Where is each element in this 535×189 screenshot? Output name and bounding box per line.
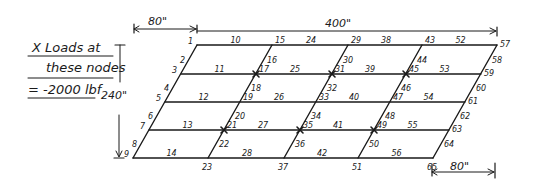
bottom-dimension: 80" bbox=[432, 160, 495, 178]
node-label: 7 bbox=[140, 122, 146, 131]
member-label: 30 bbox=[343, 56, 353, 65]
node-label: 51 bbox=[352, 163, 362, 172]
top-width-label: 400" bbox=[325, 17, 351, 30]
node-label: 17 bbox=[259, 65, 270, 74]
member-label: 18 bbox=[251, 84, 261, 93]
member-label: 44 bbox=[417, 56, 427, 65]
node-label: 1 bbox=[188, 37, 193, 46]
node-label: 23 bbox=[202, 163, 212, 172]
member-label: 12 bbox=[199, 93, 209, 102]
member-label: 48 bbox=[385, 112, 395, 121]
member-label: 28 bbox=[242, 149, 252, 158]
member-label: 55 bbox=[408, 121, 418, 130]
node-label: 57 bbox=[500, 40, 511, 49]
member-label: 10 bbox=[231, 36, 241, 45]
mesh-grid bbox=[133, 45, 497, 158]
member-label: 22 bbox=[219, 140, 229, 149]
node-label: 43 bbox=[425, 36, 435, 45]
node-label: 19 bbox=[243, 93, 253, 102]
member-label: 16 bbox=[267, 56, 277, 65]
node-label: 35 bbox=[303, 121, 313, 130]
node-label: 15 bbox=[275, 36, 285, 45]
node-label: 65 bbox=[427, 163, 437, 172]
member-label: 8 bbox=[132, 140, 137, 149]
member-label: 11 bbox=[215, 65, 225, 74]
legend-line-1: X Loads at bbox=[31, 40, 101, 55]
member-label: 56 bbox=[392, 149, 402, 158]
member-label: 27 bbox=[258, 121, 269, 130]
member-label: 36 bbox=[295, 140, 305, 149]
member-label: 46 bbox=[401, 84, 411, 93]
member-label: 62 bbox=[460, 112, 470, 121]
node-label: 31 bbox=[335, 65, 345, 74]
node-label: 29 bbox=[351, 36, 361, 45]
member-label: 25 bbox=[290, 65, 300, 74]
node-label: 61 bbox=[468, 97, 478, 106]
node-label: 45 bbox=[409, 65, 419, 74]
node-label: 47 bbox=[393, 93, 404, 102]
member-label: 53 bbox=[440, 65, 450, 74]
member-label: 50 bbox=[369, 140, 379, 149]
bottom-offset-label: 80" bbox=[450, 160, 469, 173]
node-label: 59 bbox=[484, 69, 494, 78]
member-label: 26 bbox=[274, 93, 284, 102]
member-label: 38 bbox=[381, 36, 391, 45]
member-label: 24 bbox=[306, 36, 316, 45]
member-label: 41 bbox=[333, 121, 343, 130]
top-offset-label: 80" bbox=[148, 15, 167, 28]
member-label: 40 bbox=[349, 93, 359, 102]
member-label: 13 bbox=[183, 121, 193, 130]
top-dimensions: 80" 400" bbox=[134, 15, 497, 36]
node-label: 5 bbox=[156, 94, 161, 103]
member-label: 60 bbox=[476, 84, 486, 93]
node-label: 49 bbox=[377, 121, 387, 130]
member-label: 20 bbox=[235, 112, 245, 121]
member-label: 58 bbox=[492, 56, 502, 65]
member-label: 14 bbox=[167, 149, 177, 158]
member-label: 2 bbox=[180, 56, 185, 65]
node-label: 21 bbox=[227, 121, 237, 130]
member-label: 6 bbox=[148, 112, 153, 121]
member-label: 54 bbox=[424, 93, 434, 102]
node-label: 9 bbox=[124, 150, 129, 159]
member-label: 4 bbox=[164, 84, 169, 93]
member-label: 34 bbox=[311, 112, 321, 121]
member-label: 39 bbox=[365, 65, 375, 74]
member-label: 52 bbox=[456, 36, 466, 45]
legend-line-2: these nodes bbox=[46, 60, 126, 75]
height-dimension-label: 240" bbox=[101, 89, 127, 102]
truss-mesh-diagram: X Loads at these nodes = -2000 lbf 240" … bbox=[0, 0, 535, 189]
member-label: 42 bbox=[317, 149, 327, 158]
member-label: 32 bbox=[327, 84, 337, 93]
mesh-labels: 1357915171921232931333537434547495157596… bbox=[124, 36, 511, 172]
node-label: 37 bbox=[278, 163, 289, 172]
legend-line-3: = -2000 lbf bbox=[28, 82, 104, 97]
member-label: 64 bbox=[444, 140, 454, 149]
node-label: 63 bbox=[452, 125, 462, 134]
node-label: 3 bbox=[172, 66, 177, 75]
node-label: 33 bbox=[319, 93, 329, 102]
